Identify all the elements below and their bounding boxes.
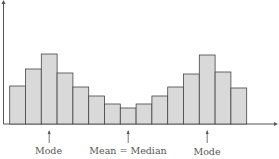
arrow-head-icon: [48, 130, 51, 134]
histogram-bar: [10, 86, 26, 124]
histogram-bar: [105, 104, 121, 124]
histogram-bar: [199, 55, 215, 124]
histogram-bar: [136, 104, 152, 124]
histogram-bar: [73, 87, 89, 124]
bars-group: [10, 54, 247, 124]
histogram-bar: [57, 73, 73, 124]
histogram-bar: [89, 96, 105, 124]
arrow-head-icon: [206, 130, 209, 134]
histogram-bar: [215, 72, 231, 124]
histogram-bar: [152, 96, 168, 124]
histogram-bar: [26, 69, 42, 124]
y-axis-arrow-icon: [2, 0, 6, 4]
x-axis-arrow-icon: [274, 122, 278, 126]
mean-median-label: Mean = Median: [89, 145, 166, 156]
histogram-bar: [41, 54, 57, 124]
arrow-head-icon: [127, 130, 130, 134]
mode-right-label: Mode: [193, 146, 221, 157]
histogram-bar: [168, 87, 184, 124]
annotation-arrows: [48, 130, 209, 143]
histogram-bar: [120, 108, 136, 124]
histogram-bar: [231, 88, 247, 124]
mode-left-label: Mode: [35, 145, 63, 156]
histogram-bar: [184, 74, 200, 124]
histogram-chart: Mode Mean = Median Mode: [0, 0, 279, 159]
